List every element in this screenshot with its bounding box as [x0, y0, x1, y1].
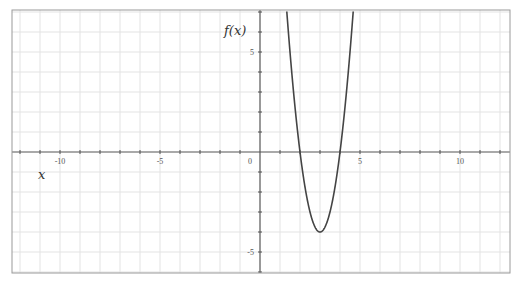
x-tick-label: 10: [456, 157, 464, 166]
x-tick-label: -5: [157, 157, 164, 166]
plot-frame: [12, 10, 510, 273]
x-tick-label: 0: [248, 157, 252, 166]
y-tick-label: 5: [250, 48, 254, 57]
grid-lines: [12, 10, 510, 273]
axes: [12, 10, 510, 273]
x-axis-label: x: [38, 167, 46, 182]
x-tick-label: 5: [358, 157, 362, 166]
function-plot: -10-505105-5 f(x) x: [0, 0, 516, 281]
y-axis-label: f(x): [223, 23, 246, 38]
y-tick-label: -5: [247, 248, 254, 257]
x-tick-label: -10: [55, 157, 66, 166]
